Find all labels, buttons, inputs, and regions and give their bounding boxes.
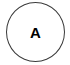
node-a[interactable]: A — [6, 2, 65, 62]
node-a-label: A — [30, 25, 41, 40]
